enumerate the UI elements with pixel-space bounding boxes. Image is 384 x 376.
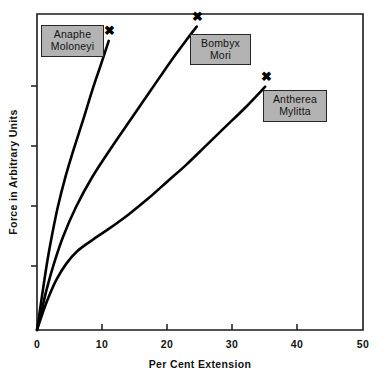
x-axis-title: Per Cent Extension [149,358,252,370]
x-tick-label-20: 20 [161,338,173,350]
x-tick-label-0: 0 [34,338,40,350]
series-label-bombyx-mori: Bombyx Mori [190,34,251,65]
series-label-bombyx-line2: Mori [210,50,231,62]
x-tick-label-10: 10 [96,338,108,350]
stress-strain-chart: 0 10 20 30 40 50 Per Cent Extension Forc… [0,0,384,376]
x-axis-ticks [102,324,297,330]
break-marker-bombyx-mori: ✖ [192,9,203,24]
curve-antherea-mylitta [37,87,265,330]
break-marker-antherea-mylitta: ✖ [261,69,272,84]
x-tick-label-30: 30 [226,338,238,350]
series-label-antherea-line2: Mylitta [279,106,311,118]
y-axis-title: Force in Arbitrary Units [7,109,19,234]
series-label-anaphe-moloneyi: Anaphe Moloneyi [41,25,104,57]
series-label-bombyx-line1: Bombyx [201,38,240,50]
break-marker-anaphe-moloneyi: ✖ [104,23,115,38]
x-tick-label-50: 50 [357,338,369,350]
y-axis-ticks [31,86,37,266]
series-label-anaphe-line2: Moloneyi [51,41,95,53]
x-tick-label-40: 40 [291,338,303,350]
series-label-antherea-mylitta: Antherea Mylitta [263,90,327,122]
